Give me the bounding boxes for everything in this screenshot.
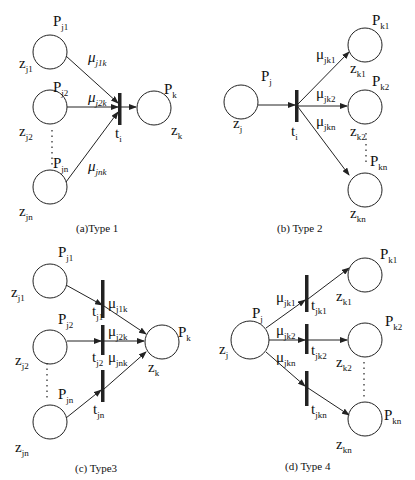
label-b-z-k2: zk2 (350, 124, 366, 142)
label-c-z-k: zk (148, 360, 159, 378)
place-b-k2 (348, 90, 382, 124)
place-c-j2 (33, 330, 67, 364)
label-d-t-jk1: tjk1 (311, 298, 327, 316)
label-a-t-i: ti (115, 126, 122, 144)
label-b-mu-jk1: μjk1 (316, 47, 336, 65)
label-c-z-j1: zj1 (11, 285, 25, 303)
caption-a: (a)Type 1 (76, 222, 118, 234)
transition-b (295, 90, 299, 122)
label-d-z-j: zj (219, 342, 228, 360)
label-d-mu-jk1: μjk1 (276, 290, 296, 308)
label-b-p-kn: Pkn (370, 154, 387, 172)
label-a-z-jn: zjn (19, 204, 33, 222)
label-b-p-k1: Pk1 (372, 13, 389, 31)
label-c-mu-j2k: μj2k (108, 324, 128, 342)
label-d-mu-jk2: μjk2 (276, 323, 296, 341)
label-a-p-j1: Pj1 (53, 14, 68, 32)
label-d-p-j: Pj (252, 306, 263, 324)
label-a-mu-j1k: μj1k (88, 50, 107, 68)
label-c-p-k: Pk (178, 325, 191, 343)
label-c-z-j2: zj2 (15, 353, 29, 371)
label-a-z-k: zk (171, 123, 182, 141)
transition-c-jn (101, 370, 105, 402)
label-b-mu-jk2: μjk2 (316, 86, 336, 104)
label-c-p-jn: Pjn (58, 387, 73, 405)
place-c-j1 (33, 264, 67, 298)
label-c-t-j2: tj2 (92, 350, 103, 368)
label-c-z-jn: zjn (15, 440, 29, 458)
place-d-kn (348, 402, 382, 436)
label-d-t-jk2: tjk2 (311, 343, 327, 361)
transition-a (118, 93, 122, 125)
place-c-k (145, 325, 179, 359)
label-b-p-k2: Pk2 (372, 74, 389, 92)
label-b-mu-jkn: μjkn (316, 114, 336, 132)
place-d-k2 (348, 323, 382, 357)
label-d-t-jkn: tjkn (311, 402, 327, 420)
caption-c: (c) Type3 (75, 462, 117, 474)
label-d-z-k1: zk1 (336, 289, 352, 307)
caption-b: (b) Type 2 (277, 222, 322, 234)
place-c-jn (33, 405, 67, 439)
label-c-p-j2: Pj2 (58, 312, 73, 330)
place-a-j1 (33, 35, 67, 69)
label-b-t-i: ti (291, 124, 298, 142)
label-d-p-k1: Pk1 (380, 247, 397, 265)
label-d-mu-jkn: μjkn (276, 350, 296, 368)
label-b-z-kn: zkn (350, 206, 366, 224)
place-d-j (231, 321, 269, 359)
label-a-mu-jnk: μjnk (88, 159, 107, 177)
label-c-mu-jnk: μjnk (108, 350, 128, 368)
label-c-p-j1: Pj1 (58, 245, 73, 263)
place-a-jn (33, 170, 67, 204)
label-a-p-j2: Pj2 (53, 80, 68, 98)
label-b-z-k1: zk1 (350, 61, 366, 79)
label-c-mu-j1k: μj1k (108, 296, 128, 314)
place-d-k1 (348, 258, 382, 292)
label-c-t-jn: tjn (93, 402, 104, 420)
label-c-t-j1: tj1 (92, 304, 103, 322)
label-a-mu-j2k: μj2k (88, 90, 107, 108)
transition-d-jkn (305, 371, 309, 406)
transition-d-jk1 (305, 275, 309, 312)
label-b-p-j: Pj (261, 69, 272, 87)
caption-d: (d) Type 4 (285, 460, 330, 472)
transition-d-jk2 (305, 324, 309, 354)
label-d-z-k2: zk2 (336, 355, 352, 373)
place-b-k1 (348, 28, 382, 62)
label-a-z-j1: zj1 (19, 56, 33, 74)
label-a-z-j2: zj2 (19, 124, 33, 142)
label-d-p-k2: Pk2 (385, 314, 402, 332)
label-b-z-j: zj (233, 116, 242, 134)
label-d-p-kn: Pkn (384, 408, 401, 426)
label-a-p-k: Pk (164, 82, 177, 100)
label-d-z-kn: zkn (336, 437, 352, 455)
label-a-p-jn: Pjn (53, 156, 68, 174)
place-b-kn (348, 173, 382, 207)
place-b-j (224, 85, 258, 119)
